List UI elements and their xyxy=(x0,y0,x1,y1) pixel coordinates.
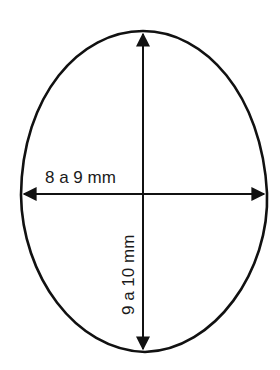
egg-dimension-diagram: 8 a 9 mm 9 a 10 mm xyxy=(0,0,280,370)
width-label: 8 a 9 mm xyxy=(45,168,116,187)
height-label: 9 a 10 mm xyxy=(119,235,138,315)
egg-outline xyxy=(21,31,267,352)
